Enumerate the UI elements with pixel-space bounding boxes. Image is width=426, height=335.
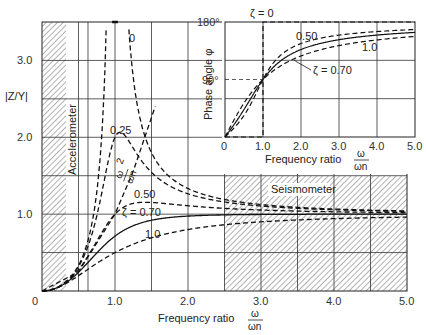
x-tick-label: 1.0 xyxy=(107,295,122,307)
x-tick-label: 2.0 xyxy=(180,295,195,307)
y-tick-label: 3.0 xyxy=(17,54,32,66)
svg-text:2: 2 xyxy=(114,156,126,165)
inset-label-zeta-050: 0.50 xyxy=(296,30,317,42)
inset-x-tick-label: 1.0 xyxy=(255,140,270,152)
label-zeta-070: ζ = 0.70 xyxy=(122,206,161,218)
inset-x-tick-label: 4.0 xyxy=(369,140,384,152)
main-x-ratio-num: ω xyxy=(251,308,259,319)
label-ratio-squared: ω ωn 2 xyxy=(109,156,142,185)
label-zeta-100: 1.0 xyxy=(145,228,160,240)
chart-canvas: 01.02.03.04.05.01.02.03.0 |Z/Y| Accelero… xyxy=(0,0,426,335)
inset-label-zeta-0: ζ = 0 xyxy=(250,7,274,19)
x-tick-label: 0 xyxy=(32,295,38,307)
y-tick-label: 2.0 xyxy=(17,131,32,143)
label-zeta-0: 0 xyxy=(129,32,135,44)
main-x-ratio-den: ωn xyxy=(248,321,261,332)
inset-x-axis-label: Frequency ratio xyxy=(265,153,341,165)
inset-label-zeta-070: ζ = 0.70 xyxy=(313,64,352,76)
inset-x-tick-label: 5.0 xyxy=(407,140,422,152)
svg-text:ωn: ωn xyxy=(124,169,139,185)
x-tick-label: 5.0 xyxy=(399,295,414,307)
inset-x-tick-label: 2.0 xyxy=(293,140,308,152)
inset-x-ratio-num: ω xyxy=(357,148,365,159)
inset-y-axis-label: Phase angle φ xyxy=(202,49,214,120)
main-x-axis-label: Frequency ratio xyxy=(158,312,234,324)
label-zeta-050: 0.50 xyxy=(134,188,155,200)
accelerometer-region xyxy=(42,22,66,291)
inset-label-zeta-100: 1.0 xyxy=(362,41,377,53)
label-zeta-025: 0.25 xyxy=(110,124,131,136)
x-tick-label: 4.0 xyxy=(326,295,341,307)
frequency-response-figure: 01.02.03.04.05.01.02.03.0 |Z/Y| Accelero… xyxy=(0,0,426,335)
seismometer-label: Seismometer xyxy=(271,183,336,195)
inset-x-tick-label: 0 xyxy=(221,140,227,152)
x-tick-label: 3.0 xyxy=(253,295,268,307)
y-tick-label: 1.0 xyxy=(17,208,32,220)
accelerometer-label: Accelerometer xyxy=(66,104,78,175)
inset-x-tick-label: 3.0 xyxy=(331,140,346,152)
inset-y-tick-label: 180° xyxy=(197,16,220,28)
inset-phase-plot: 01.02.03.04.05.090°180° Phase angle φ Fr… xyxy=(197,7,422,174)
inset-x-ratio-den: ωn xyxy=(354,161,367,172)
main-y-axis-label: |Z/Y| xyxy=(5,90,28,102)
